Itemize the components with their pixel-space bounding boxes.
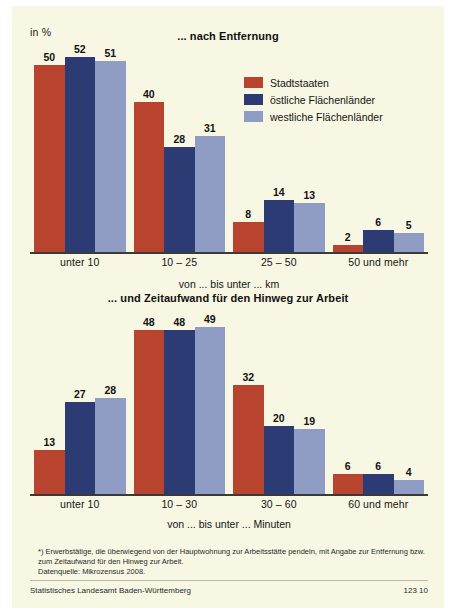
bar-slot: 40 — [134, 46, 165, 252]
bar-group-bars: 81413 — [233, 46, 325, 252]
bar[interactable] — [195, 327, 226, 494]
bar-value-label: 6 — [333, 460, 364, 472]
bar-slot: 50 — [34, 46, 65, 252]
bar-value-label: 2 — [333, 231, 364, 243]
bar-group: 664 — [329, 306, 429, 494]
footer-number: 123 10 — [404, 586, 428, 595]
category-label: 60 und mehr — [329, 498, 429, 510]
chart-2-groups: 132728484849322019664 — [30, 306, 428, 494]
bar[interactable] — [65, 57, 96, 252]
bar-group: 402831 — [130, 46, 230, 252]
bar-slot: 48 — [164, 306, 195, 494]
chart-1-axis-caption: von ... bis unter ... km — [30, 278, 428, 290]
bar-slot: 2 — [333, 46, 364, 252]
bar-slot: 28 — [164, 46, 195, 252]
category-label: unter 10 — [30, 498, 130, 510]
bar-group-bars: 265 — [333, 46, 425, 252]
bar-value-label: 19 — [294, 415, 325, 427]
bar-value-label: 51 — [95, 47, 126, 59]
bar-slot: 32 — [233, 306, 264, 494]
bar[interactable] — [394, 480, 425, 494]
bar[interactable] — [233, 222, 264, 252]
bar[interactable] — [65, 402, 96, 494]
bar[interactable] — [164, 147, 195, 252]
bar-value-label: 50 — [34, 51, 65, 63]
bar[interactable] — [333, 245, 364, 252]
chart-2-axis — [30, 494, 428, 496]
bar[interactable] — [264, 426, 295, 494]
bar-group-bars: 484849 — [134, 306, 226, 494]
bar[interactable] — [134, 102, 165, 252]
chart-2-axis-caption: von ... bis unter ... Minuten — [30, 518, 428, 530]
category-label: 25 – 50 — [229, 256, 329, 268]
bar-value-label: 40 — [134, 88, 165, 100]
chart-2-title: ... und Zeitaufwand für den Hinweg zur A… — [12, 292, 444, 304]
bar-slot: 6 — [333, 306, 364, 494]
bar-group: 132728 — [30, 306, 130, 494]
bar[interactable] — [394, 233, 425, 252]
bar-slot: 49 — [195, 306, 226, 494]
infographic-page: in % ... nach Entfernung ... und Zeitauf… — [12, 6, 444, 608]
chart-2-plot: 132728484849322019664 — [30, 306, 428, 494]
bar[interactable] — [363, 474, 394, 495]
bar-value-label: 14 — [264, 186, 295, 198]
bar-value-label: 31 — [195, 122, 226, 134]
bar-slot: 19 — [294, 306, 325, 494]
bar[interactable] — [333, 474, 364, 495]
bar-value-label: 8 — [233, 208, 264, 220]
bar-slot: 31 — [195, 46, 226, 252]
chart-1-groups: 50525140283181413265 — [30, 46, 428, 252]
bar-slot: 6 — [363, 306, 394, 494]
footer-source: Statistisches Landesamt Baden-Württember… — [30, 586, 191, 595]
bar[interactable] — [95, 398, 126, 494]
category-label: 10 – 30 — [130, 498, 230, 510]
bar-slot: 20 — [264, 306, 295, 494]
bar-value-label: 5 — [394, 219, 425, 231]
bar[interactable] — [363, 230, 394, 252]
bar-value-label: 48 — [134, 316, 165, 328]
bar-value-label: 28 — [95, 384, 126, 396]
bar[interactable] — [95, 61, 126, 252]
bar-group-bars: 322019 — [233, 306, 325, 494]
bar-slot: 4 — [394, 306, 425, 494]
bar-group: 81413 — [229, 46, 329, 252]
chart-1-plot: 50525140283181413265 — [30, 46, 428, 252]
footer-divider — [30, 580, 428, 581]
bar-value-label: 48 — [164, 316, 195, 328]
bar[interactable] — [294, 429, 325, 494]
category-label: unter 10 — [30, 256, 130, 268]
bar[interactable] — [264, 200, 295, 252]
bar-value-label: 52 — [65, 43, 96, 55]
bar[interactable] — [34, 450, 65, 494]
footnote-line: *) Erwerbstätige, die überwiegend von de… — [38, 547, 428, 567]
bar[interactable] — [294, 203, 325, 252]
bar[interactable] — [233, 385, 264, 494]
chart-1-title: ... nach Entfernung — [12, 30, 444, 42]
chart-1-category-labels: unter 1010 – 2525 – 5050 und mehr — [30, 256, 428, 268]
chart-zeitaufwand: 132728484849322019664 unter 1010 – 3030 … — [30, 306, 428, 534]
bar-group: 265 — [329, 46, 429, 252]
bar[interactable] — [34, 65, 65, 252]
bar-value-label: 13 — [294, 189, 325, 201]
bar[interactable] — [195, 136, 226, 252]
chart-2-category-labels: unter 1010 – 3030 – 6060 und mehr — [30, 498, 428, 510]
bar-slot: 13 — [294, 46, 325, 252]
footnote-line: Datenquelle: Mikrozensus 2008. — [38, 567, 428, 577]
bar-slot: 6 — [363, 46, 394, 252]
bar-slot: 14 — [264, 46, 295, 252]
category-label: 50 und mehr — [329, 256, 429, 268]
bar-group-bars: 664 — [333, 306, 425, 494]
bar[interactable] — [134, 330, 165, 494]
bar-slot: 13 — [34, 306, 65, 494]
bar-group-bars: 402831 — [134, 46, 226, 252]
category-label: 30 – 60 — [229, 498, 329, 510]
bar-slot: 8 — [233, 46, 264, 252]
chart-1-axis — [30, 252, 428, 254]
bar-slot: 5 — [394, 46, 425, 252]
category-label: 10 – 25 — [130, 256, 230, 268]
bar[interactable] — [164, 330, 195, 494]
bar-slot: 52 — [65, 46, 96, 252]
bar-value-label: 32 — [233, 371, 264, 383]
bar-value-label: 4 — [394, 466, 425, 478]
bar-value-label: 13 — [34, 436, 65, 448]
